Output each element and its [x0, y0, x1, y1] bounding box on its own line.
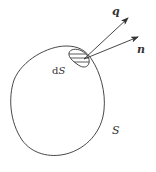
surface-label: S [112, 125, 120, 136]
closed-surface-outline [11, 46, 105, 155]
vector-n-label: n [137, 44, 145, 55]
element-symbol: S [58, 65, 65, 76]
surface-flux-diagram: q n dS S [0, 0, 156, 172]
vector-q-label: q [112, 6, 120, 17]
vector-n-arrow [84, 37, 138, 59]
diagram-canvas [0, 0, 156, 172]
vector-q-arrow [84, 18, 128, 59]
surface-element-patch [66, 49, 92, 67]
surface-element-label: dS [52, 66, 65, 76]
